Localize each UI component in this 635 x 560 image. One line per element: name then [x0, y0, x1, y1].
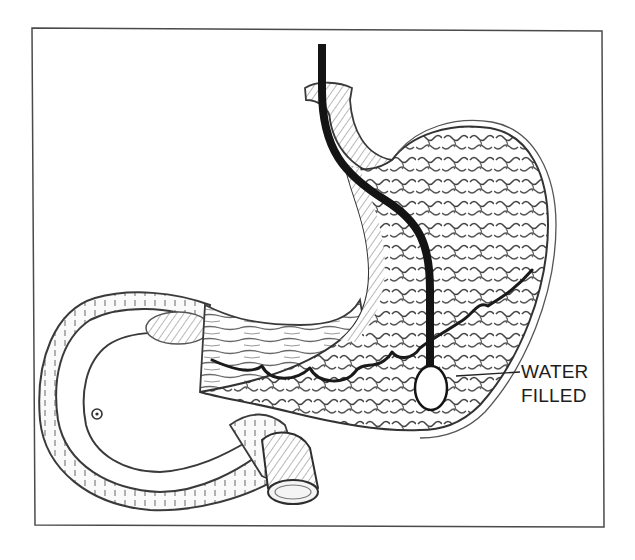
callout-label-water: WATER [521, 361, 589, 383]
callout-label-filled: FILLED [521, 385, 587, 407]
water-filled-balloon [415, 366, 447, 410]
stomach-diagram [0, 0, 635, 560]
